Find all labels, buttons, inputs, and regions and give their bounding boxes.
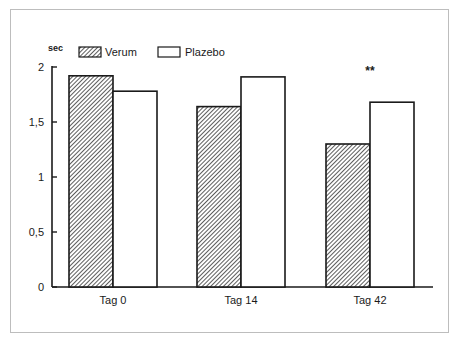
legend-swatch-plazebo (158, 47, 180, 57)
y-tick-label: 0 (38, 281, 44, 293)
legend: Verum Plazebo (79, 46, 225, 58)
legend-label-plazebo: Plazebo (185, 46, 225, 58)
y-tick-label: 0,5 (29, 226, 44, 238)
significance-marker: ** (365, 64, 375, 78)
x-tick-label: Tag 42 (353, 294, 386, 306)
bars (69, 76, 414, 287)
x-tick-label: Tag 0 (100, 294, 127, 306)
bar-verum-tag-42 (326, 144, 370, 287)
bar-chart: sec Verum Plazebo 00,511,52 Tag 0Tag 14T… (0, 0, 460, 346)
bar-verum-tag-0 (69, 76, 113, 287)
legend-label-verum: Verum (105, 46, 137, 58)
bar-verum-tag-14 (197, 107, 241, 287)
x-axis-labels: Tag 0Tag 14Tag 42 (100, 294, 387, 306)
bar-plazebo-tag-0 (113, 91, 157, 287)
legend-swatch-verum (79, 47, 101, 57)
annotations: ** (365, 64, 375, 78)
y-tick-label: 2 (38, 61, 44, 73)
y-tick-label: 1,5 (29, 116, 44, 128)
x-tick-label: Tag 14 (224, 294, 257, 306)
y-axis-unit-label: sec (48, 43, 63, 53)
bar-plazebo-tag-14 (241, 77, 285, 287)
bar-plazebo-tag-42 (370, 102, 414, 287)
y-tick-label: 1 (38, 171, 44, 183)
